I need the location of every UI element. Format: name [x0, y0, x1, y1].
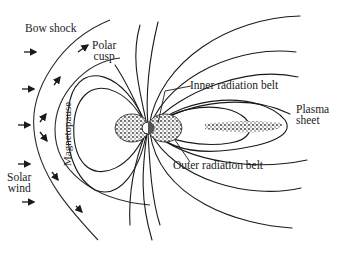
southern-field-lines: [130, 132, 160, 240]
solar-wind-label-line2: wind: [7, 183, 31, 194]
magnetosphere-diagram: [0, 0, 359, 256]
plasma-sheet: [205, 121, 282, 132]
plasma-sheet-label: Plasma sheet: [296, 104, 329, 126]
polar-cusp-label: Polar cusp: [92, 40, 116, 62]
bow-shock-label: Bow shock: [25, 23, 76, 34]
polar-cusp-label-line2: cusp: [92, 51, 116, 62]
magnetopause-label: Magnetopause: [61, 102, 73, 166]
plasma-sheet-label-line2: sheet: [296, 115, 329, 126]
tail-field-lines-north: [149, 16, 300, 127]
outer-radiation-belt-label: Outer radiation belt: [173, 160, 263, 171]
inner-radiation-belt-label: Inner radiation belt: [190, 80, 278, 91]
solar-wind-label: Solar wind: [7, 172, 31, 194]
